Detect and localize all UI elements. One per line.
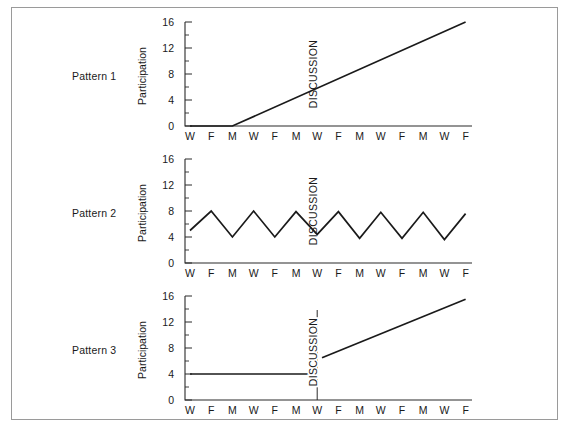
y-major-ticks-2 [185,159,192,263]
x-tick-label: M [355,404,364,416]
discussion-annotation-3: DISCUSSION [307,318,319,386]
x-tick-label: M [292,130,301,142]
x-tick-label: F [399,267,405,279]
x-tick-label: M [228,404,237,416]
y-axis-title-3: Participation [136,321,148,379]
y-axis-title-1: Participation [136,47,148,105]
page-root: Pattern 1 Participation 16 12 8 4 0 [0,0,571,427]
x-tick-label: W [312,267,322,279]
x-tick-label: F [335,267,341,279]
x-tick-label: W [439,404,449,416]
y-tick-label: 16 [162,290,174,302]
x-tick-label: M [228,267,237,279]
x-tick-label: F [462,267,468,279]
x-tick-label: W [185,404,195,416]
x-tick-label: W [312,130,322,142]
x-tick-label: W [185,267,195,279]
x-tick-label: W [249,404,259,416]
data-line-pattern-1 [190,22,466,126]
x-tick-label: F [399,404,405,416]
chart-pattern-1: Participation 16 12 8 4 0 [132,8,532,145]
chart-panel-pattern-1: Pattern 1 Participation 16 12 8 4 0 [12,8,559,145]
y-tick-label: 12 [162,42,174,54]
x-tick-label: W [249,267,259,279]
page-border-frame: Pattern 1 Participation 16 12 8 4 0 [11,7,558,420]
pattern-label-1: Pattern 1 [72,70,116,82]
discussion-annotation-2: DISCUSSION [307,177,319,245]
x-tick-label: M [228,130,237,142]
chart-panel-pattern-2: Pattern 2 Participation 16 12 8 4 0 [12,145,559,282]
x-tick-label: W [439,130,449,142]
chart-pattern-3: Participation 16 12 8 4 0 [132,282,532,421]
x-tick-label: F [272,130,278,142]
x-tick-label: W [439,267,449,279]
pattern-label-2: Pattern 2 [72,207,116,219]
data-line-pattern-3-post [322,299,466,358]
x-tick-label: M [292,267,301,279]
y-tick-label: 16 [162,153,174,165]
y-tick-label: 16 [162,16,174,28]
data-line-pattern-2 [190,211,466,240]
y-tick-label: 0 [168,120,174,132]
x-tick-label: F [462,404,468,416]
x-tick-label: F [208,404,214,416]
chart-panel-pattern-3: Pattern 3 Participation 16 12 8 4 0 [12,282,559,421]
axis-lines-3 [185,296,472,400]
y-tick-label: 8 [168,205,174,217]
pattern-label-3: Pattern 3 [72,344,116,356]
y-tick-label: 12 [162,316,174,328]
x-tick-label: M [419,404,428,416]
y-axis-title-2: Participation [136,184,148,242]
x-tick-label: F [208,130,214,142]
x-tick-label: W [249,130,259,142]
x-tick-label: M [355,130,364,142]
x-tick-label: M [419,130,428,142]
x-tick-label: F [399,130,405,142]
discussion-annotation-1: DISCUSSION [307,40,319,108]
x-tick-label: F [335,130,341,142]
x-tick-label: W [312,404,322,416]
axis-lines-2 [185,159,472,263]
y-major-ticks-1 [185,22,192,126]
x-tick-label: F [208,267,214,279]
x-tick-label: M [355,267,364,279]
x-tick-label: W [376,267,386,279]
y-tick-label: 8 [168,68,174,80]
x-tick-label: M [419,267,428,279]
y-tick-label: 4 [168,231,174,243]
chart-pattern-2: Participation 16 12 8 4 0 [132,145,532,282]
y-tick-label: 4 [168,94,174,106]
y-major-ticks-3 [185,296,192,400]
x-tick-label: F [335,404,341,416]
x-tick-label: F [272,404,278,416]
x-tick-label: M [292,404,301,416]
y-tick-label: 0 [168,394,174,406]
y-tick-label: 0 [168,257,174,269]
x-tick-label: W [376,130,386,142]
x-tick-label: F [462,130,468,142]
y-tick-label: 12 [162,179,174,191]
x-tick-label: F [272,267,278,279]
y-tick-label: 8 [168,342,174,354]
x-tick-label: W [185,130,195,142]
y-tick-label: 4 [168,368,174,380]
x-tick-label: W [376,404,386,416]
